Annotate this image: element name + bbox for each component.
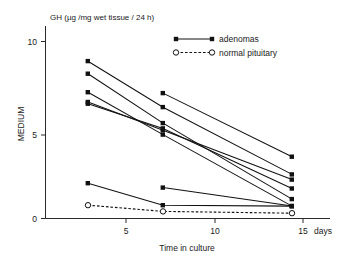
series-group (85, 59, 294, 216)
y-tick-label-5: 5 (32, 130, 37, 140)
series-adenoma-5 (161, 91, 294, 159)
chart-canvas: 0 5 10 5 10 15 days GH (µg /mg wet tissu… (0, 0, 345, 259)
legend-label-normal-pituitary: normal pituitary (219, 48, 278, 58)
series-adenoma-7 (86, 181, 294, 208)
series-line (88, 92, 292, 206)
x-axis-title: Time in culture (159, 243, 215, 253)
x-tick-label-5: 5 (124, 226, 129, 236)
series-line (163, 93, 292, 157)
figure-chart-gh-medium: 0 5 10 5 10 15 days GH (µg /mg wet tissu… (0, 0, 345, 259)
legend-marker-open-circle (173, 50, 178, 55)
legend-marker-filled-square (210, 37, 214, 41)
data-point-marker (85, 203, 90, 208)
data-point-marker (86, 72, 90, 76)
data-point-marker (290, 155, 294, 159)
series-line (88, 104, 292, 189)
legend-marker-filled-square (174, 37, 178, 41)
series-line (88, 74, 292, 199)
data-point-marker (161, 128, 165, 132)
data-point-marker (86, 100, 90, 104)
axis-group: 0 5 10 5 10 15 days (28, 26, 332, 236)
data-point-marker (290, 186, 294, 190)
series-line (163, 188, 292, 207)
data-point-marker (161, 203, 165, 207)
series-adenoma-6 (86, 100, 294, 182)
data-point-marker (290, 204, 294, 208)
data-point-marker (86, 59, 90, 63)
data-point-marker (290, 197, 294, 201)
data-point-marker (290, 172, 294, 176)
x-axis-unit-label: days (314, 226, 332, 236)
series-line (88, 61, 292, 174)
y-tick-label-10: 10 (28, 37, 38, 47)
series-adenoma-1 (86, 59, 294, 177)
data-point-marker (289, 211, 294, 216)
value-unit-title: GH (µg /mg wet tissue / 24 h) (50, 13, 155, 22)
legend-marker-open-circle (209, 50, 214, 55)
series-adenoma-3 (86, 90, 294, 208)
x-tick-label-15: 15 (298, 226, 308, 236)
legend-entry-normal-pituitary: normal pituitary (173, 48, 278, 58)
data-point-marker (161, 105, 165, 109)
series-normal-pituitary (85, 203, 294, 216)
data-point-marker (290, 177, 294, 181)
y-tick-label-0: 0 (32, 214, 37, 224)
legend: adenomas normal pituitary (173, 34, 278, 58)
series-adenoma-2 (86, 72, 294, 202)
legend-entry-adenomas: adenomas (174, 34, 259, 44)
x-tick-label-10: 10 (210, 226, 220, 236)
data-point-marker (86, 90, 90, 94)
data-point-marker (161, 132, 165, 136)
data-point-marker (161, 121, 165, 125)
series-line (88, 183, 292, 206)
data-point-marker (161, 91, 165, 95)
legend-label-adenomas: adenomas (219, 34, 259, 44)
series-line (88, 102, 292, 180)
y-axis-title: MEDIUM (16, 107, 26, 141)
data-point-marker (160, 209, 165, 214)
series-adenoma-4 (86, 102, 294, 191)
data-point-marker (161, 185, 165, 189)
data-point-marker (86, 181, 90, 185)
